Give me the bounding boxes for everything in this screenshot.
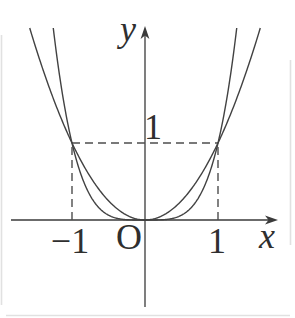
y-tick-label-1: 1 [144, 107, 162, 147]
axes [11, 26, 278, 307]
x-axis-label: x [258, 216, 275, 256]
function-plot-figure: y x O 1 −1 1 [0, 0, 295, 318]
x-tick-label-neg-1: −1 [51, 221, 89, 261]
x-tick-label-1: 1 [208, 221, 226, 261]
y-axis-label: y [117, 9, 136, 49]
origin-label: O [116, 217, 142, 257]
plot-canvas: y x O 1 −1 1 [0, 0, 295, 318]
